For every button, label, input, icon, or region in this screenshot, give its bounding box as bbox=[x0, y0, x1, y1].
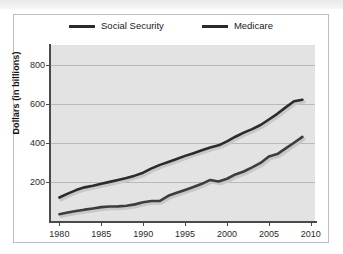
x-tick-label: 2010 bbox=[301, 229, 321, 239]
y-tick-label: 200 bbox=[30, 177, 45, 187]
x-tick-mark bbox=[143, 221, 144, 226]
x-tick-label: 1985 bbox=[91, 229, 111, 239]
plot-area: 200400600800 198019851990199520002005201… bbox=[51, 45, 315, 221]
x-axis-line bbox=[49, 221, 317, 223]
x-tick-mark bbox=[185, 221, 186, 226]
x-tick-label: 2000 bbox=[217, 229, 237, 239]
y-tick-label: 600 bbox=[30, 99, 45, 109]
y-axis-title: Dollars (in billions) bbox=[11, 33, 21, 153]
series-lines bbox=[51, 45, 315, 221]
legend-swatch-medicare bbox=[202, 25, 228, 28]
top-decorative-band bbox=[0, 0, 343, 9]
x-tick-mark bbox=[227, 221, 228, 226]
series-line-medicare bbox=[59, 137, 302, 214]
legend-label-social-security: Social Security bbox=[101, 21, 164, 31]
x-tick-mark bbox=[59, 221, 60, 226]
x-tick-label: 1990 bbox=[133, 229, 153, 239]
legend-label-medicare: Medicare bbox=[234, 21, 273, 31]
y-tick-label: 800 bbox=[30, 60, 45, 70]
series-shadow-medicare bbox=[61, 139, 304, 216]
x-tick-label: 1995 bbox=[175, 229, 195, 239]
x-tick-mark bbox=[101, 221, 102, 226]
x-tick-label: 1980 bbox=[49, 229, 69, 239]
chart-screenshot: Social Security Medicare 200400600800 19… bbox=[0, 0, 343, 254]
legend-item-medicare: Medicare bbox=[202, 21, 273, 31]
series-line-social-security bbox=[59, 100, 302, 198]
x-tick-label: 2005 bbox=[259, 229, 279, 239]
legend-swatch-social-security bbox=[69, 25, 95, 28]
y-tick-label: 400 bbox=[30, 138, 45, 148]
legend-item-social-security: Social Security bbox=[69, 21, 164, 31]
x-tick-mark bbox=[269, 221, 270, 226]
x-tick-mark bbox=[311, 221, 312, 226]
chart-legend: Social Security Medicare bbox=[13, 18, 329, 34]
